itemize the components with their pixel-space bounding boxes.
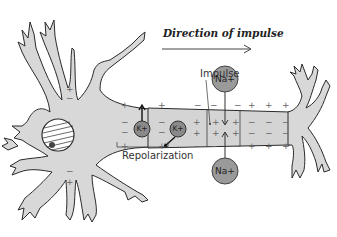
charge-plus: + xyxy=(265,100,273,110)
charge-minus: − xyxy=(234,141,242,151)
charge-minus: − xyxy=(121,127,129,137)
charge-plus: + xyxy=(212,117,220,127)
charge-plus: + xyxy=(232,128,240,138)
charge-minus: − xyxy=(66,166,74,176)
charge-minus: − xyxy=(248,117,256,127)
cell-body xyxy=(10,20,150,222)
charge-plus: + xyxy=(212,128,220,138)
charge-minus: − xyxy=(265,128,273,138)
charge-minus: − xyxy=(265,117,273,127)
repolarization-label: Repolarization xyxy=(122,150,193,161)
direction-arrow xyxy=(162,45,251,53)
charge-plus: + xyxy=(158,100,166,110)
axon-terminal xyxy=(288,64,330,178)
charge-plus: + xyxy=(248,141,256,151)
charge-plus: + xyxy=(121,100,129,110)
sodium-ion-bottom: Na+ xyxy=(212,158,238,184)
charge-plus: + xyxy=(232,117,240,127)
charge-plus: + xyxy=(193,128,201,138)
charge-minus: − xyxy=(248,128,256,138)
charge-plus: + xyxy=(282,141,290,151)
charge-plus: + xyxy=(248,100,256,110)
potassium-ion-right: K+ xyxy=(170,121,186,137)
charge-plus: + xyxy=(282,100,290,110)
charge-minus: − xyxy=(194,100,202,110)
neuron-diagram: + − − + + + − − − − + + + + − − + + + + … xyxy=(0,0,337,237)
charge-minus: − xyxy=(210,141,218,151)
direction-of-impulse-label: Direction of impulse xyxy=(163,27,284,39)
charge-minus: − xyxy=(210,100,218,110)
charge-minus: − xyxy=(66,93,74,103)
nucleus xyxy=(42,119,74,151)
charge-minus: − xyxy=(121,117,129,127)
charge-minus: − xyxy=(282,128,290,138)
charge-minus: − xyxy=(282,117,290,127)
sodium-ion-top: Na+ xyxy=(212,66,238,92)
charge-minus: − xyxy=(158,117,166,127)
charge-minus: − xyxy=(234,100,242,110)
charge-plus: + xyxy=(193,117,201,127)
charge-minus: − xyxy=(194,141,202,151)
charge-minus: − xyxy=(158,127,166,137)
charge-plus: + xyxy=(66,177,74,187)
potassium-ion-left: K+ xyxy=(134,121,150,137)
charge-plus: + xyxy=(265,141,273,151)
